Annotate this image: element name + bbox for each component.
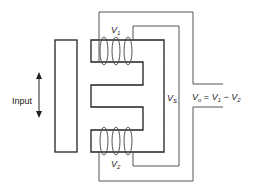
e-core xyxy=(91,40,164,152)
vs-label: VS xyxy=(167,93,177,104)
output-wire-top xyxy=(99,12,223,84)
output-equation: Vo = V1 − V2 xyxy=(192,92,241,103)
diagram-canvas: Input V1 V2 VS Vo = V1 − V2 xyxy=(0,0,258,193)
coil-v2 xyxy=(100,127,132,155)
input-label: Input xyxy=(12,96,33,106)
v2-label: V2 xyxy=(111,159,121,170)
armature-bar xyxy=(55,40,77,152)
input-arrow-icon xyxy=(36,72,42,118)
coil-v1 xyxy=(100,37,132,65)
v1-label: V1 xyxy=(111,25,120,36)
